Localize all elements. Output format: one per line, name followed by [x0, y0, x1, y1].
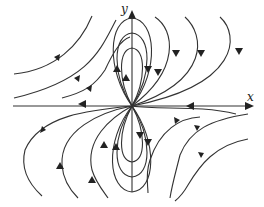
trajectory: [14, 20, 116, 98]
arrow-icon: [144, 139, 152, 146]
arrow-icon: [235, 48, 243, 55]
trajectory: [14, 16, 92, 74]
arrow-icon: [144, 66, 152, 73]
x-axis-label: x: [247, 90, 254, 104]
trajectory: [176, 140, 248, 200]
arrow-icon: [100, 141, 108, 148]
arrow-icon: [78, 100, 86, 108]
arrow-icon: [56, 162, 64, 169]
arrow-icon: [113, 65, 121, 72]
trajectory: [132, 106, 236, 114]
arrow-icon: [172, 50, 180, 57]
arrow-icon: [122, 74, 130, 81]
arrow-icon: [198, 152, 204, 158]
y-axis-label: y: [121, 2, 128, 16]
trajectory: [175, 139, 248, 201]
trajectory: [62, 106, 132, 198]
trajectory: [170, 114, 248, 198]
phase-portrait: y x: [0, 0, 264, 207]
arrow-icon: [74, 75, 80, 82]
arrow-icon: [86, 85, 92, 92]
arrow-icon: [197, 50, 205, 57]
phase-portrait-svg: [0, 0, 264, 207]
trajectory: [24, 106, 132, 196]
